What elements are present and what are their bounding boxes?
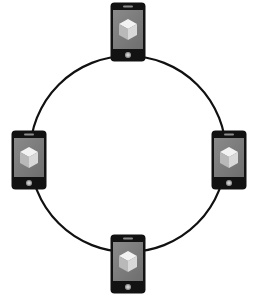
smartphone-right xyxy=(211,130,247,190)
smartphone-bottom xyxy=(110,234,146,294)
smartphone-top xyxy=(110,2,146,62)
smartphone-left xyxy=(11,130,47,190)
ring-network-diagram: Four smartphones connected in a ring top… xyxy=(0,0,254,297)
